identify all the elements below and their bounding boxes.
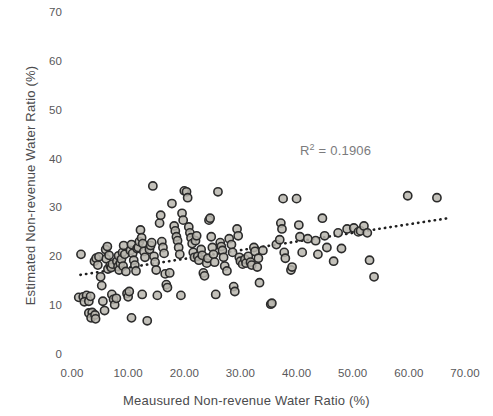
scatter-point	[200, 272, 208, 280]
scatter-plot-figure: 010203040506070 0.0010.0020.0030.0040.00…	[0, 0, 493, 416]
scatter-point	[312, 237, 320, 245]
scatter-point	[177, 291, 185, 299]
scatter-point	[103, 242, 111, 250]
scatter-point	[254, 254, 262, 262]
scatter-point	[86, 292, 94, 300]
scatter-point	[100, 306, 108, 314]
y-tick-label: 50	[36, 104, 62, 116]
scatter-point	[132, 267, 140, 275]
x-tick-label: 20.00	[158, 367, 210, 379]
scatter-point	[125, 287, 133, 295]
scatter-point	[234, 232, 242, 240]
scatter-point	[321, 232, 329, 240]
x-tick-label: 0.00	[46, 367, 98, 379]
scatter-point	[91, 315, 99, 323]
scatter-point	[184, 194, 192, 202]
scatter-point	[160, 249, 168, 257]
scatter-point	[292, 195, 300, 203]
y-tick-label: 10	[36, 299, 62, 311]
scatter-point	[77, 250, 85, 258]
scatter-point	[168, 199, 176, 207]
scatter-point	[334, 229, 342, 237]
scatter-point	[149, 182, 157, 190]
y-tick-label: 60	[36, 55, 62, 67]
scatter-point	[148, 239, 156, 247]
scatter-point	[276, 236, 284, 244]
data-points	[75, 182, 441, 325]
x-tick-label: 10.00	[102, 367, 154, 379]
scatter-point	[278, 225, 286, 233]
y-tick-label: 70	[36, 6, 62, 18]
y-axis-title: Estimated Non-revenue Water Ratio (%)	[23, 36, 38, 336]
scatter-point	[99, 297, 107, 305]
y-tick-label: 0	[36, 348, 62, 360]
scatter-point	[155, 219, 163, 227]
scatter-point	[209, 250, 217, 258]
x-tick-label: 70.00	[439, 367, 491, 379]
scatter-point	[127, 314, 135, 322]
scatter-point	[231, 287, 239, 295]
r-squared-annotation: R2 = 0.1906	[300, 142, 371, 158]
x-axis-title: Meausured Non-revenue Water Ratio (%)	[0, 393, 493, 408]
y-tick-label: 40	[36, 153, 62, 165]
scatter-point	[152, 266, 160, 274]
scatter-point	[143, 317, 151, 325]
scatter-point	[337, 244, 345, 252]
scatter-point	[253, 263, 261, 271]
scatter-point	[122, 267, 130, 275]
scatter-point	[212, 290, 220, 298]
scatter-point	[279, 195, 287, 203]
scatter-point	[296, 233, 304, 241]
scatter-point	[157, 211, 165, 219]
scatter-point	[105, 251, 113, 259]
scatter-point	[288, 263, 296, 271]
scatter-point	[94, 261, 102, 269]
scatter-point	[433, 194, 441, 202]
scatter-point	[193, 232, 201, 240]
scatter-point	[318, 214, 326, 222]
scatter-point	[219, 253, 227, 261]
scatter-point	[207, 233, 215, 241]
y-tick-label: 30	[36, 201, 62, 213]
scatter-point	[138, 290, 146, 298]
scatter-point	[365, 256, 373, 264]
scatter-point	[176, 250, 184, 258]
scatter-point	[223, 267, 231, 275]
scatter-point	[97, 273, 105, 281]
scatter-point	[370, 273, 378, 281]
scatter-point	[295, 221, 303, 229]
scatter-point	[163, 283, 171, 291]
scatter-point	[304, 235, 312, 243]
scatter-point	[136, 226, 144, 234]
plot-canvas	[0, 0, 493, 416]
scatter-point	[323, 243, 331, 251]
x-tick-label: 50.00	[327, 367, 379, 379]
scatter-point	[153, 291, 161, 299]
scatter-point	[255, 279, 263, 287]
scatter-point	[98, 282, 106, 290]
x-tick-label: 60.00	[383, 367, 435, 379]
scatter-point	[363, 229, 371, 237]
scatter-point	[259, 246, 267, 254]
scatter-point	[298, 248, 306, 256]
scatter-point	[214, 188, 222, 196]
scatter-point	[227, 240, 235, 248]
r-squared-prefix: R	[300, 143, 310, 158]
scatter-point	[206, 214, 214, 222]
scatter-point	[330, 257, 338, 265]
scatter-point	[112, 294, 120, 302]
y-tick-label: 20	[36, 250, 62, 262]
scatter-point	[268, 299, 276, 307]
x-tick-label: 40.00	[271, 367, 323, 379]
scatter-point	[281, 254, 289, 262]
scatter-point	[166, 269, 174, 277]
scatter-point	[141, 253, 149, 261]
r-squared-value: = 0.1906	[315, 143, 371, 158]
scatter-point	[314, 250, 322, 258]
scatter-point	[151, 258, 159, 266]
x-tick-label: 30.00	[214, 367, 266, 379]
scatter-point	[211, 258, 219, 266]
scatter-point	[404, 192, 412, 200]
